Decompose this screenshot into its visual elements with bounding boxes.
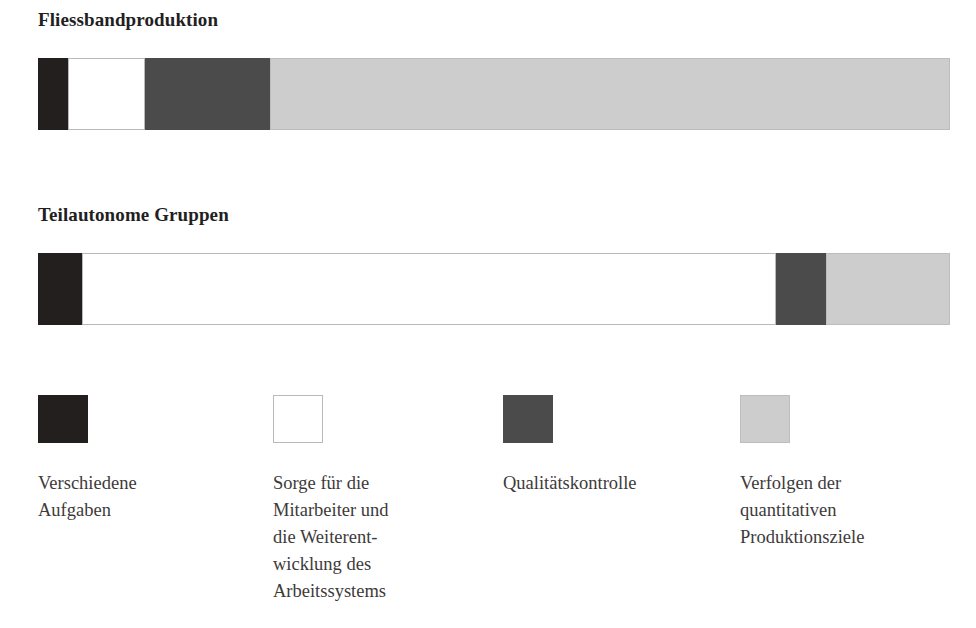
- legend-item-produktionsziele: Verfolgen der quantitativen Produktionsz…: [740, 395, 950, 551]
- bar-segment-produktionsziele: [826, 253, 950, 325]
- legend-swatch-sorge-mitarbeiter: [273, 395, 323, 443]
- legend-label-verschiedene-aufgaben: Verschiedene Aufgaben: [38, 470, 273, 524]
- bar-group-fliessbandproduktion: Fliessbandproduktion: [38, 8, 950, 130]
- bar-segment-verschiedene-aufgaben: [38, 253, 82, 325]
- bar-segment-produktionsziele: [270, 58, 950, 130]
- legend-label-produktionsziele: Verfolgen der quantitativen Produktionsz…: [740, 470, 950, 551]
- chart-legend: Verschiedene AufgabenSorge für die Mitar…: [38, 395, 958, 605]
- legend-label-sorge-mitarbeiter: Sorge für die Mitarbeiter und die Weiter…: [273, 470, 503, 605]
- bar-segment-sorge-mitarbeiter: [82, 253, 776, 325]
- legend-item-sorge-mitarbeiter: Sorge für die Mitarbeiter und die Weiter…: [273, 395, 503, 605]
- legend-item-verschiedene-aufgaben: Verschiedene Aufgaben: [38, 395, 273, 524]
- legend-swatch-verschiedene-aufgaben: [38, 395, 88, 443]
- bar-title: Fliessbandproduktion: [38, 8, 950, 32]
- stacked-bar-row: [38, 58, 950, 130]
- legend-item-qualitaetskontrolle: Qualitätskontrolle: [503, 395, 740, 497]
- legend-swatch-produktionsziele: [740, 395, 790, 443]
- legend-label-qualitaetskontrolle: Qualitätskontrolle: [503, 470, 740, 497]
- bar-segment-qualitaetskontrolle: [145, 58, 270, 130]
- bar-segment-qualitaetskontrolle: [776, 253, 826, 325]
- legend-swatch-qualitaetskontrolle: [503, 395, 553, 443]
- bar-segment-verschiedene-aufgaben: [38, 58, 68, 130]
- bar-segment-sorge-mitarbeiter: [68, 58, 145, 130]
- stacked-bar-chart: Fliessbandproduktion Teilautonome Gruppe…: [0, 0, 976, 628]
- bar-title: Teilautonome Gruppen: [38, 203, 950, 227]
- bar-group-teilautonome-gruppen: Teilautonome Gruppen: [38, 203, 950, 325]
- stacked-bar-row: [38, 253, 950, 325]
